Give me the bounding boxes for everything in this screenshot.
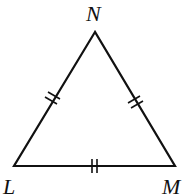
triangle-LMN (14, 32, 175, 166)
triangle-diagram: N L M (0, 0, 191, 194)
tick-marks-NM (128, 96, 143, 108)
vertex-label-M: M (161, 174, 182, 194)
vertex-label-L: L (2, 174, 15, 194)
vertex-label-N: N (85, 1, 102, 26)
